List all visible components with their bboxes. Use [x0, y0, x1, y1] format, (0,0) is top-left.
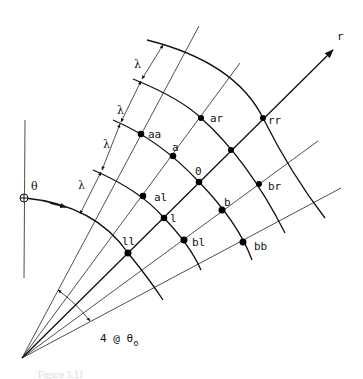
label-rr: rr [268, 114, 282, 127]
node-0 [196, 179, 203, 186]
arc-5 [147, 40, 325, 218]
angular-dimension-label: 4 @ θo [100, 332, 139, 348]
label-bl: bl [192, 236, 205, 249]
lambda-label-2: λ [103, 138, 110, 151]
label-b: b [224, 196, 231, 209]
ray-5 [22, 188, 341, 358]
lambda-label-3: λ [117, 104, 124, 117]
label-ar: ar [210, 112, 224, 125]
node-rr [260, 115, 266, 121]
r-axis-label: r [337, 30, 344, 43]
node-br [256, 181, 262, 187]
arc-2 [93, 170, 201, 270]
radial-rays [22, 26, 341, 358]
circled-plus-marker [20, 194, 28, 202]
r-axis-arrow [22, 50, 333, 358]
node-ll [125, 250, 132, 257]
arc-1-theta [25, 198, 163, 300]
circumferential-arcs [25, 40, 325, 300]
label-br: br [268, 180, 282, 193]
polar-grid-diagram: θ λ λ λ λ 4 @ θo r aa ar rr a 0 al l [0, 0, 363, 379]
label-aa: aa [148, 128, 161, 141]
node-bb [240, 239, 247, 246]
label-ll: ll [122, 235, 135, 248]
lambda-label-4: λ [134, 58, 141, 71]
ray-2 [22, 63, 240, 358]
label-a: a [172, 141, 179, 154]
node-aa [138, 131, 145, 138]
label-l: l [170, 212, 177, 225]
node-ar [198, 115, 204, 121]
lambda-dim-3 [121, 81, 141, 122]
lambda-label-1: λ [78, 179, 85, 192]
ray-4 [22, 141, 318, 358]
node-l [161, 215, 168, 222]
node-bl [181, 237, 188, 244]
node-al [140, 193, 147, 200]
label-0: 0 [195, 165, 202, 178]
lambda-dim-4 [142, 45, 163, 79]
node-ur [228, 147, 234, 153]
theta-label: θ [31, 180, 38, 193]
label-al: al [154, 191, 167, 204]
ray-1 [22, 26, 199, 358]
label-bb: bb [254, 240, 267, 253]
figure-caption: Figure 3.11 [38, 369, 84, 379]
